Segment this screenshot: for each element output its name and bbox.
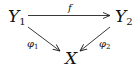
- label-phi1-sub: 1: [34, 43, 38, 51]
- node-y1-sub: 1: [19, 16, 25, 27]
- label-phi1: φ1: [27, 39, 38, 51]
- node-y2-sub: 2: [126, 16, 132, 27]
- label-f-text: f: [68, 2, 72, 13]
- node-x: X: [65, 50, 77, 67]
- node-y1-base: Y: [8, 6, 19, 26]
- label-phi2-sub: 2: [106, 43, 110, 51]
- label-phi2-base: φ: [99, 38, 106, 49]
- node-x-base: X: [65, 48, 77, 67]
- label-phi1-base: φ: [27, 38, 34, 49]
- node-y1: Y1: [8, 8, 26, 27]
- node-y2-base: Y: [115, 6, 126, 26]
- node-y2: Y2: [115, 8, 133, 27]
- label-phi2: φ2: [99, 39, 110, 51]
- label-f: f: [68, 3, 72, 13]
